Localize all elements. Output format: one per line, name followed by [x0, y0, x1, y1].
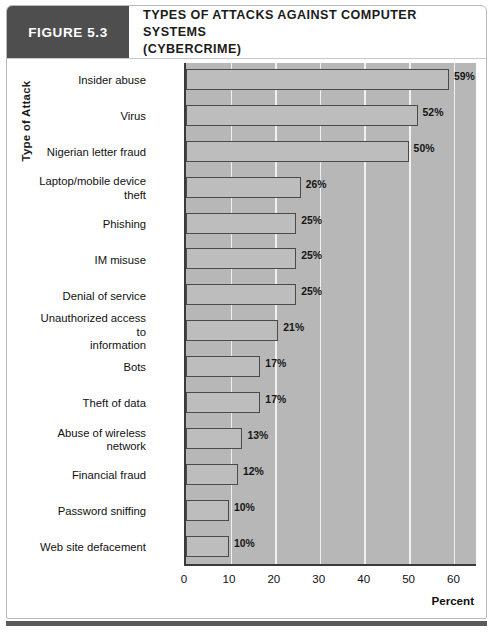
x-tick-label: 30: [312, 572, 325, 585]
bar-slot: 17%: [184, 386, 476, 422]
plot-area: Insider abuseVirusNigerian letter fraudL…: [39, 63, 476, 620]
bar-value-label: 17%: [265, 394, 286, 405]
bar: [186, 428, 242, 449]
bar-value-label: 10%: [234, 502, 255, 513]
x-tick-label: 20: [267, 572, 280, 585]
bar-slot: 10%: [184, 530, 476, 566]
bar: [186, 392, 260, 413]
bar: [186, 284, 296, 305]
bar-value-label: 25%: [301, 250, 322, 261]
figure-title-line-1: TYPES OF ATTACKS AGAINST COMPUTER SYSTEM…: [143, 7, 476, 41]
category-label-line: Bots: [39, 361, 146, 374]
category-label-line: Financial fraud: [39, 469, 146, 482]
category-label: Laptop/mobile devicetheft: [39, 175, 152, 201]
bar-value-label: 13%: [247, 430, 268, 441]
category-label: Nigerian letter fraud: [39, 146, 152, 159]
bar-slot: 25%: [184, 278, 476, 314]
bar: [186, 500, 229, 521]
bar-slot: 21%: [184, 314, 476, 350]
bar: [186, 536, 229, 557]
category-label-line: theft: [39, 189, 146, 202]
bar: [186, 105, 418, 126]
bar: [186, 356, 260, 377]
figure-header: FIGURE 5.3 TYPES OF ATTACKS AGAINST COMP…: [7, 6, 486, 59]
bar-series: 59%52%50%26%25%25%25%21%17%17%13%12%10%1…: [184, 63, 476, 566]
figure-title-line-2: (CYBERCRIME): [143, 41, 476, 58]
bar-value-label: 17%: [265, 358, 286, 369]
bar-slot: 25%: [184, 207, 476, 243]
bar: [186, 177, 301, 198]
bar: [186, 464, 238, 485]
bar-value-label: 59%: [454, 71, 475, 82]
category-label: Password sniffing: [39, 505, 152, 518]
x-tick-label: 40: [357, 572, 370, 585]
category-label-line: Denial of service: [39, 290, 146, 303]
category-label-line: Laptop/mobile device: [39, 175, 146, 188]
chart-body: Type of Attack Insider abuseVirusNigeria…: [7, 59, 486, 620]
category-label-line: Abuse of wireless: [39, 427, 146, 440]
bar-slot: 25%: [184, 242, 476, 278]
category-label: Theft of data: [39, 397, 152, 410]
bar-slot: 13%: [184, 422, 476, 458]
x-axis-title: Percent: [431, 594, 474, 607]
category-label-line: Nigerian letter fraud: [39, 146, 146, 159]
category-label: Denial of service: [39, 290, 152, 303]
bar: [186, 141, 409, 162]
bar-slot: 52%: [184, 99, 476, 135]
bar-value-label: 26%: [306, 179, 327, 190]
x-tick-label: 60: [447, 572, 460, 585]
bar-slot: 26%: [184, 171, 476, 207]
figure-title: TYPES OF ATTACKS AGAINST COMPUTER SYSTEM…: [129, 6, 486, 58]
category-label-line: Virus: [39, 110, 146, 123]
bar: [186, 320, 278, 341]
category-label: Web site defacement: [39, 541, 152, 554]
x-axis: Percent 0102030405060: [184, 566, 476, 620]
bar-value-label: 25%: [301, 286, 322, 297]
x-tick-label: 50: [402, 572, 415, 585]
category-label-line: network: [39, 440, 146, 453]
bar-value-label: 50%: [414, 143, 435, 154]
category-label-line: Web site defacement: [39, 541, 146, 554]
category-label: Virus: [39, 110, 152, 123]
bar: [186, 213, 296, 234]
category-label: Bots: [39, 361, 152, 374]
figure-number-badge: FIGURE 5.3: [7, 6, 129, 58]
bar-value-label: 12%: [243, 466, 264, 477]
bar: [186, 69, 449, 90]
category-label: IM misuse: [39, 254, 152, 267]
category-label-line: Password sniffing: [39, 505, 146, 518]
y-axis-title: Type of Attack: [20, 61, 32, 181]
bar-value-label: 52%: [423, 107, 444, 118]
bar-value-label: 21%: [283, 322, 304, 333]
category-label: Abuse of wirelessnetwork: [39, 427, 152, 453]
x-tick-label: 0: [181, 572, 187, 585]
category-label: Financial fraud: [39, 469, 152, 482]
category-label-line: Phishing: [39, 218, 146, 231]
category-label-line: Theft of data: [39, 397, 146, 410]
category-label-line: Unauthorized access to: [39, 312, 146, 338]
bar-value-label: 10%: [234, 538, 255, 549]
bar: [186, 248, 296, 269]
category-label: Insider abuse: [39, 74, 152, 87]
category-label-line: IM misuse: [39, 254, 146, 267]
bar-slot: 10%: [184, 494, 476, 530]
category-label: Phishing: [39, 218, 152, 231]
bar-slot: 59%: [184, 63, 476, 99]
bar-slot: 50%: [184, 135, 476, 171]
figure-container: FIGURE 5.3 TYPES OF ATTACKS AGAINST COMP…: [6, 5, 487, 619]
category-label-line: Insider abuse: [39, 74, 146, 87]
bar-slot: 17%: [184, 350, 476, 386]
x-tick-label: 10: [222, 572, 235, 585]
category-label: Unauthorized access toinformation: [39, 312, 152, 352]
figure-bottom-rule: [6, 621, 487, 626]
bar-value-label: 25%: [301, 215, 322, 226]
bar-slot: 12%: [184, 458, 476, 494]
